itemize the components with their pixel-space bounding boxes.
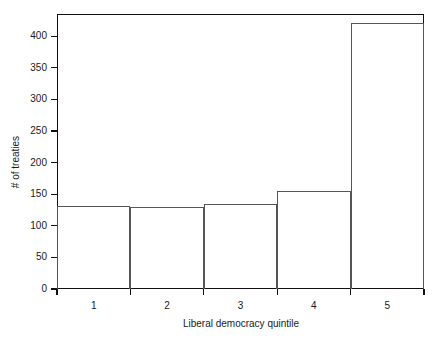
bar — [277, 191, 350, 289]
y-tick-label: 100 — [30, 219, 47, 233]
y-tick-label: 0 — [41, 282, 47, 296]
histogram-figure: # of treaties 050100150200250300350400 1… — [0, 0, 439, 343]
x-tick-label: 2 — [147, 300, 187, 311]
y-tick-label: 50 — [36, 250, 47, 264]
x-tick-mark — [130, 289, 131, 295]
bar — [204, 204, 277, 289]
x-tick-label: 5 — [367, 300, 407, 311]
y-axis-title: # of treaties — [8, 35, 24, 289]
y-tick-label: 350 — [30, 61, 47, 75]
y-tick-mark — [51, 194, 57, 195]
x-tick-label: 3 — [221, 300, 261, 311]
x-tick-mark — [56, 289, 57, 295]
x-tick-mark — [277, 289, 278, 295]
x-tick-label: 1 — [74, 300, 114, 311]
x-axis-title: Liberal democracy quintile — [57, 318, 425, 329]
y-tick-mark — [51, 162, 57, 163]
bar — [351, 23, 424, 289]
x-tick-mark — [350, 289, 351, 295]
plot-area: 050100150200250300350400 12345 — [57, 14, 424, 289]
y-tick-mark — [51, 67, 57, 68]
y-tick-mark — [51, 36, 57, 37]
y-tick-mark — [51, 130, 57, 131]
y-tick-mark — [51, 99, 57, 100]
y-tick-label: 300 — [30, 92, 47, 106]
y-tick-label: 250 — [30, 124, 47, 138]
x-tick-mark — [423, 289, 424, 295]
y-tick-label: 200 — [30, 156, 47, 170]
bar — [57, 206, 130, 289]
x-tick-mark — [203, 289, 204, 295]
bar — [130, 207, 203, 289]
y-tick-label: 400 — [30, 29, 47, 43]
y-tick-label: 150 — [30, 187, 47, 201]
x-tick-label: 4 — [294, 300, 334, 311]
